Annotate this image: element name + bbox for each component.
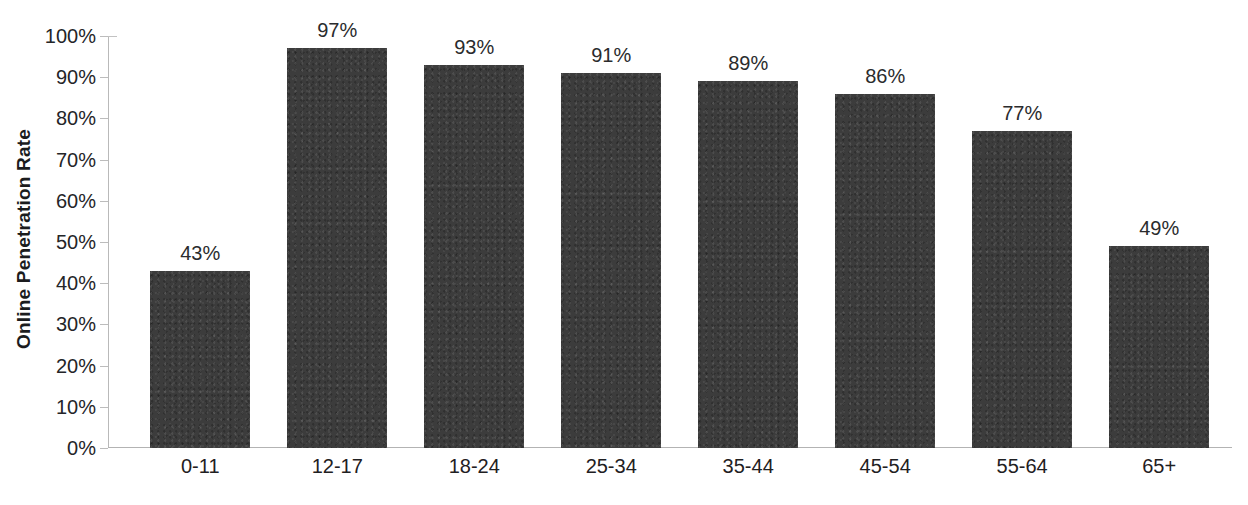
y-axis-tick-label: 30% xyxy=(14,313,96,336)
bar-chart: Online Penetration Rate 100%90%80%70%60%… xyxy=(0,0,1248,505)
y-axis-tick-label: 40% xyxy=(14,272,96,295)
y-axis-tick xyxy=(100,448,108,449)
y-axis-tick xyxy=(100,77,108,78)
y-axis-tick-label: 80% xyxy=(14,107,96,130)
y-axis-tick-label: 90% xyxy=(14,66,96,89)
y-axis-tick xyxy=(100,242,108,243)
y-axis-tick-label: 100% xyxy=(14,25,96,48)
x-axis-tick-label: 65+ xyxy=(1079,455,1239,478)
y-axis-tick-label: 10% xyxy=(14,395,96,418)
y-axis-tick-label: 20% xyxy=(14,354,96,377)
y-axis-tick xyxy=(100,366,108,367)
x-axis-tick-labels: 0-1112-1718-2425-3435-4445-5455-6465+ xyxy=(108,0,1232,505)
x-axis-tick-label: 35-44 xyxy=(668,455,828,478)
y-axis-tick-label: 50% xyxy=(14,231,96,254)
y-axis-tick xyxy=(100,36,108,37)
y-axis-tick xyxy=(100,324,108,325)
y-axis-tick xyxy=(100,407,108,408)
y-axis-tick-labels: 100%90%80%70%60%50%40%30%20%10%0% xyxy=(14,36,96,448)
y-axis-tick xyxy=(100,118,108,119)
y-axis-tick xyxy=(100,283,108,284)
y-axis-tick xyxy=(100,201,108,202)
y-axis-tick-label: 60% xyxy=(14,189,96,212)
y-axis-tick-label: 0% xyxy=(14,437,96,460)
y-axis-tick xyxy=(100,160,108,161)
y-axis-tick-label: 70% xyxy=(14,148,96,171)
